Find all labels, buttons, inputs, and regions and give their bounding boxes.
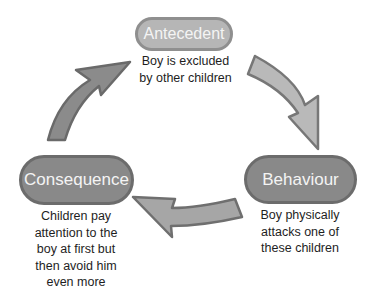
node-consequence-label: Consequence bbox=[24, 170, 129, 190]
caption-consequence: Children pay attention to the boy at fir… bbox=[18, 208, 134, 291]
caption-line: attention to the bbox=[18, 225, 134, 242]
arrow-behaviour-to-consequence-icon bbox=[133, 197, 242, 237]
node-antecedent: Antecedent bbox=[135, 17, 233, 51]
node-behaviour-label: Behaviour bbox=[262, 170, 339, 190]
caption-line: these children bbox=[244, 240, 356, 257]
caption-line: attacks one of bbox=[244, 224, 356, 241]
node-antecedent-label: Antecedent bbox=[144, 25, 225, 43]
caption-behaviour: Boy physically attacks one of these chil… bbox=[244, 207, 356, 257]
caption-line: Boy physically bbox=[244, 207, 356, 224]
node-behaviour: Behaviour bbox=[244, 155, 357, 204]
caption-line: Boy is excluded bbox=[128, 53, 243, 70]
caption-line: by other children bbox=[128, 70, 243, 87]
caption-line: even more bbox=[18, 274, 134, 291]
arrow-antecedent-to-behaviour-icon bbox=[248, 56, 318, 149]
caption-line: boy at first but bbox=[18, 241, 134, 258]
node-consequence: Consequence bbox=[19, 155, 134, 205]
arrow-consequence-to-antecedent-icon bbox=[48, 62, 130, 140]
caption-antecedent: Boy is excluded by other children bbox=[128, 53, 243, 86]
caption-line: then avoid him bbox=[18, 258, 134, 275]
caption-line: Children pay bbox=[18, 208, 134, 225]
